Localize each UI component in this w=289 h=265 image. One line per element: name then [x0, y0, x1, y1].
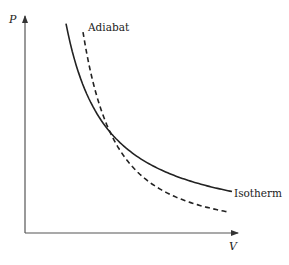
diagram-canvas: P V Adiabat Isotherm [0, 0, 289, 265]
pv-diagram: P V Adiabat Isotherm [0, 0, 289, 265]
volume-axis-label: V [229, 240, 238, 253]
isotherm-label: Isotherm [234, 187, 282, 199]
pressure-axis-label: P [8, 13, 17, 26]
isotherm-curve [66, 24, 232, 192]
adiabat-label: Adiabat [87, 21, 130, 33]
